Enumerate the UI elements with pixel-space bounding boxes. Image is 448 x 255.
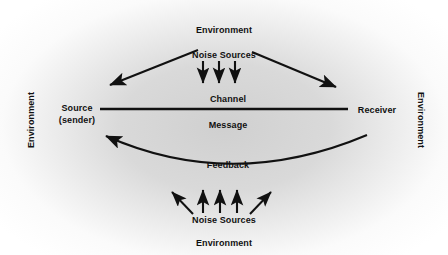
environment-bottom-label: Environment [196,238,252,249]
source-label: Source (sender) [59,103,95,126]
noise-arrow-bottom-left-diagonal [172,192,193,214]
source-label-line1: Source [59,103,95,115]
receiver-label: Receiver [358,105,396,116]
environment-top-label: Environment [196,25,252,36]
noise-arrow-bottom-right-diagonal [250,192,271,214]
channel-label: Channel [210,94,246,105]
noise-sources-top-label: Noise Sources [192,50,256,61]
communication-model-diagram: Environment Noise Sources Channel Messag… [0,0,448,255]
environment-left-label: Environment [26,92,37,148]
source-label-line2: (sender) [59,114,95,126]
noise-arrow-top-left-diagonal [110,50,198,85]
environment-right-label: Environment [415,92,426,148]
noise-arrow-top-right-diagonal [252,52,336,87]
feedback-label: Feedback [207,160,249,171]
message-label: Message [209,120,248,131]
noise-sources-bottom-label: Noise Sources [192,215,256,226]
